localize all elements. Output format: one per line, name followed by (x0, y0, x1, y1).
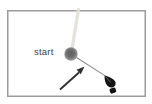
figure: start (0, 0, 152, 104)
start-node-dot (64, 47, 77, 60)
start-label: start (34, 46, 53, 57)
figure-canvas-svg (0, 0, 152, 104)
